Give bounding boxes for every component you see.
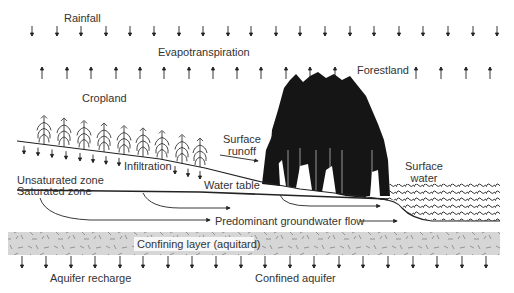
label-surface-water-line1: Surface <box>401 160 447 172</box>
label-saturated-zone: Saturated zone <box>17 185 92 197</box>
label-surface-water: Surface water <box>401 160 447 184</box>
label-evapotranspiration: Evapotranspiration <box>158 46 250 58</box>
surface-water-body <box>388 183 500 221</box>
cropland-plants <box>37 115 207 167</box>
label-surface-runoff: Surface runoff <box>220 133 264 157</box>
label-confining-layer: Confining layer (aquitard) <box>137 238 261 250</box>
label-confined-aquifer: Confined aquifer <box>255 272 336 284</box>
label-cropland: Cropland <box>82 92 127 104</box>
label-forestland: Forestland <box>357 64 409 76</box>
label-water-table: Water table <box>204 179 260 191</box>
rainfall-arrows <box>30 26 498 36</box>
label-surface-runoff-line1: Surface <box>220 133 264 145</box>
label-rainfall: Rainfall <box>64 12 101 24</box>
groundwater-flow-arrow-1 <box>40 198 210 220</box>
evapotranspiration-arrows <box>40 67 491 79</box>
label-groundwater-flow: Predominant groundwater flow <box>215 215 364 227</box>
aquifer-recharge-arrows <box>20 256 487 268</box>
label-surface-water-line2: water <box>401 172 447 184</box>
label-aquifer-recharge: Aquifer recharge <box>50 272 131 284</box>
forest-trees <box>262 72 390 198</box>
groundwater-flow-arrow-2 <box>143 193 230 208</box>
label-infiltration: Infiltration <box>124 160 172 172</box>
label-surface-runoff-line2: runoff <box>220 145 264 157</box>
